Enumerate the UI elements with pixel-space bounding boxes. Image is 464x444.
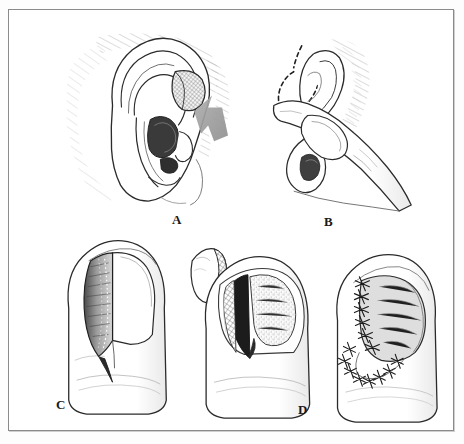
ear-anterior-edge-b xyxy=(300,54,314,110)
panel-c2-group xyxy=(205,257,309,418)
donor-site-hatch xyxy=(172,71,205,111)
figure-plate-frame: A B C D xyxy=(8,9,454,431)
panel-label-c: C xyxy=(56,398,66,411)
panel-label-b: B xyxy=(324,215,333,228)
panel-label-d: D xyxy=(298,403,308,416)
panel-a-group xyxy=(65,33,229,205)
figure-illustration xyxy=(9,10,453,430)
panel-label-a: A xyxy=(172,213,182,226)
panel-b-group xyxy=(273,39,411,211)
jaw-contour xyxy=(160,197,186,203)
panel-d-group xyxy=(337,255,437,422)
panel-c-group xyxy=(68,241,166,414)
cheek-contour xyxy=(190,159,202,205)
antitragus xyxy=(160,158,178,174)
concha-shadow-b xyxy=(300,154,320,180)
second-finger-edge-b xyxy=(294,191,400,211)
